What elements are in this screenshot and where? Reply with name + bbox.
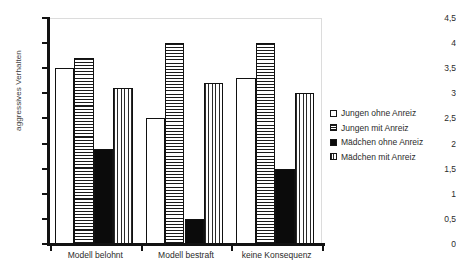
y-tick-label: 4	[416, 38, 456, 48]
bar-0-2	[94, 149, 113, 244]
legend-item-0[interactable]: Jungen ohne Anreiz	[330, 106, 456, 121]
y-tick-label: 0,5	[416, 214, 456, 224]
bar-1-0	[146, 118, 165, 244]
legend-label-1: Jungen mit Anreiz	[341, 124, 409, 133]
bar-1-1	[165, 43, 184, 244]
x-category-label-0: Modell belohnt	[50, 250, 141, 260]
legend-item-3[interactable]: Mädchen mit Anreiz	[330, 150, 456, 165]
y-axis-title: aggressives Verhalten	[14, 31, 23, 151]
legend-item-1[interactable]: Jungen mit Anreiz	[330, 121, 456, 136]
bar-1-3	[204, 83, 223, 244]
legend-label-2: Mädchen ohne Anreiz	[341, 138, 423, 147]
bar-0-0	[55, 68, 74, 244]
x-tick-mark	[322, 246, 324, 251]
legend-item-2[interactable]: Mädchen ohne Anreiz	[330, 135, 456, 150]
bar-2-1	[256, 43, 275, 244]
bars-layer	[50, 18, 322, 244]
bar-2-2	[275, 169, 294, 244]
legend-swatch-icon-0	[330, 110, 337, 117]
y-tick-label: 1	[416, 189, 456, 199]
bar-0-3	[113, 88, 132, 244]
legend-swatch-icon-1	[330, 124, 337, 131]
bar-chart: aggressives Verhalten 00,511,522,533,544…	[0, 0, 456, 270]
y-tick-label: 3,5	[416, 63, 456, 73]
x-category-label-2: keine Konsequenz	[231, 250, 322, 260]
legend-label-3: Mädchen mit Anreiz	[341, 153, 416, 162]
legend-label-0: Jungen ohne Anreiz	[341, 109, 416, 118]
bar-2-0	[236, 78, 255, 244]
y-tick-label: 3	[416, 88, 456, 98]
y-tick-label: 4,5	[416, 13, 456, 23]
legend-swatch-icon-3	[330, 153, 337, 160]
legend-swatch-icon-2	[330, 139, 337, 146]
bar-0-1	[74, 58, 93, 244]
y-tick-label: 1,5	[416, 164, 456, 174]
y-tick-label: 0	[416, 239, 456, 249]
chart-legend: Jungen ohne AnreizJungen mit AnreizMädch…	[330, 106, 456, 164]
bar-2-3	[295, 93, 314, 244]
x-axis-line	[47, 243, 325, 246]
bar-1-2	[185, 219, 204, 244]
x-category-label-1: Modell bestraft	[141, 250, 232, 260]
